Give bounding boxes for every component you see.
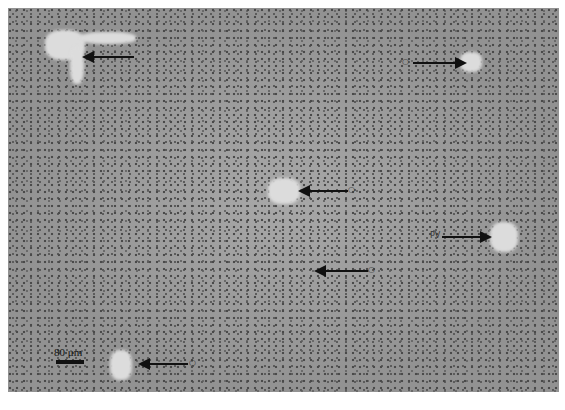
arrow-right xyxy=(442,236,482,238)
arrowhead-icon xyxy=(455,57,467,69)
vessel-center xyxy=(268,178,300,204)
arrowhead-icon xyxy=(480,231,492,243)
arrowhead-icon xyxy=(314,265,326,277)
scale-bar-label: 80 μm xyxy=(54,346,82,358)
vessel-bottom-left xyxy=(110,350,132,380)
arrowhead-icon xyxy=(138,358,150,370)
arrowhead-icon xyxy=(298,185,310,197)
label-center: ○ xyxy=(348,186,355,194)
arrow-lower-center xyxy=(324,270,368,272)
micrograph-figure: ○ ○ PV ○ ○ 80 μm xyxy=(0,0,565,410)
label-top-right: ○ xyxy=(402,58,409,66)
arrow-bottom-left xyxy=(148,363,188,365)
vessel-top-left-tail xyxy=(80,32,136,44)
arrowhead-icon xyxy=(82,51,94,63)
label-bottom-left: ○ xyxy=(189,359,196,367)
vessel-right xyxy=(490,222,518,252)
arrow-top-right xyxy=(413,62,457,64)
label-right: PV xyxy=(430,232,440,240)
arrow-center xyxy=(308,190,348,192)
scale-bar xyxy=(56,360,84,364)
arrow-top-left xyxy=(92,56,134,58)
label-lower-center: ○ xyxy=(368,266,375,274)
